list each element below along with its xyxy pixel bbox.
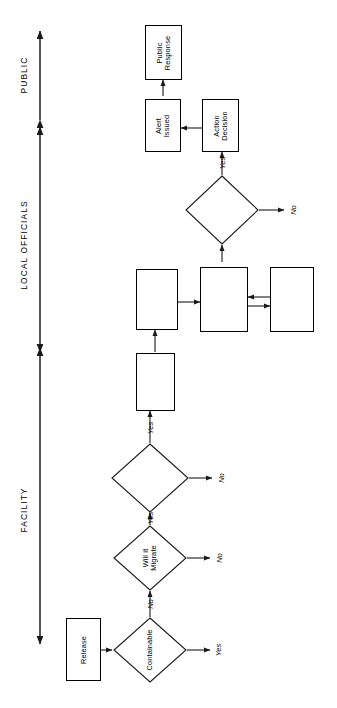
node-alert-issued-label: AlertIssued <box>155 114 172 137</box>
node-will-it-threaten-public[interactable] <box>112 444 188 512</box>
edge-label-containable-no: No <box>137 592 163 616</box>
node-release[interactable]: Release <box>66 618 101 681</box>
node-alert-issued[interactable]: AlertIssued <box>145 99 181 152</box>
band-label-local-officials: LOCAL OFFICIALS <box>14 200 34 290</box>
node-containable-label: Containable <box>146 629 154 670</box>
edge-label-should-warn-yes: Yes <box>209 150 235 176</box>
node-containable[interactable]: Containable <box>114 618 186 682</box>
edge-label-migrate-no: No <box>206 545 232 571</box>
band-label-facility: FACILITY <box>14 470 34 550</box>
node-official-decision-making[interactable] <box>136 269 178 330</box>
node-acquire-information-evaluate[interactable] <box>270 267 314 332</box>
node-public-response-label: PublicResponse <box>155 35 172 69</box>
node-release-label: Release <box>79 635 87 663</box>
band-label-public: PUBLIC <box>14 45 34 105</box>
node-action-decision[interactable]: ActionDecision <box>202 99 239 152</box>
node-should-public-be-warned[interactable] <box>186 176 258 244</box>
edge-label-threaten-no: No <box>208 465 234 491</box>
node-will-it-migrate[interactable]: Will itMigrate <box>114 526 186 590</box>
node-public-response[interactable]: PublicResponse <box>145 25 182 80</box>
edge-label-should-warn-no: No <box>280 197 306 223</box>
flowchart-canvas: PUBLIC LOCAL OFFICIALS FACILITY Release … <box>0 0 337 708</box>
edge-label-threaten-yes: Yes <box>137 415 163 441</box>
edge-label-migrate-yes: Yes <box>137 505 163 531</box>
node-will-it-migrate-label: Will itMigrate <box>142 545 159 571</box>
node-contact-emergency-response-committee[interactable] <box>200 267 248 332</box>
node-notify-local-officials[interactable] <box>136 353 175 411</box>
node-action-decision-label: ActionDecision <box>212 111 229 141</box>
edge-label-containable-yes: Yes <box>205 636 231 664</box>
